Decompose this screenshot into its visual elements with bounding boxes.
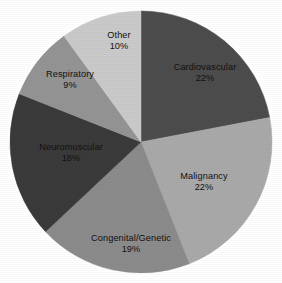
pie-chart: Cardiovascular22%Malignancy22%Congenital… bbox=[0, 0, 282, 283]
pie-chart-svg bbox=[0, 0, 282, 283]
